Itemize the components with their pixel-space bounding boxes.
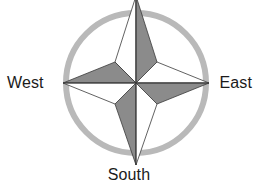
compass-label-east: East <box>220 75 252 91</box>
compass-rose-figure: West East South <box>0 0 258 186</box>
compass-label-west: West <box>7 75 44 91</box>
compass-label-south: South <box>0 167 258 183</box>
compass-rose-graphic <box>0 0 258 186</box>
